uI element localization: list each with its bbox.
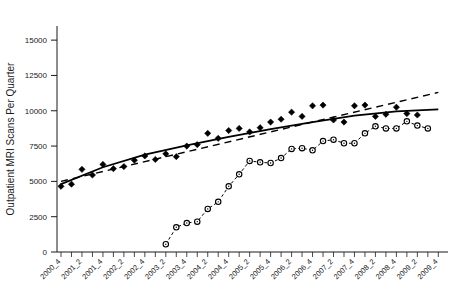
- data-point-diamond: [173, 154, 179, 160]
- y-tick-group: 0250050007500100001250015000: [25, 36, 57, 257]
- data-point-circle-center: [312, 150, 313, 151]
- y-axis-label: Outpatient MRI Scans Per Quarter: [5, 62, 16, 216]
- x-tick-label: 2001_4: [80, 257, 104, 281]
- x-tick-label: 2009_2: [395, 257, 419, 281]
- data-point-diamond: [110, 166, 116, 172]
- data-point-circle-center: [301, 147, 302, 148]
- data-point-diamond: [226, 127, 232, 133]
- data-point-circle-center: [427, 128, 428, 129]
- chart-figure: 0250050007500100001250015000 Outpatient …: [0, 0, 457, 296]
- trendline-dashed: [61, 92, 438, 181]
- data-point-circle-center: [176, 227, 177, 228]
- data-point-circle-center: [228, 186, 229, 187]
- x-tick-label: 2008_2: [353, 257, 377, 281]
- data-point-circle-center: [364, 133, 365, 134]
- x-tick-label: 2000_4: [38, 257, 62, 281]
- data-point-diamond: [393, 104, 399, 110]
- y-tick-label: 15000: [25, 36, 48, 45]
- x-tick-label: 2003_2: [143, 257, 167, 281]
- data-point-diamond: [68, 181, 74, 187]
- data-point-diamond: [414, 112, 420, 118]
- x-tick-label: 2004_4: [206, 257, 230, 281]
- data-point-diamond: [299, 113, 305, 119]
- y-axis-group: 0250050007500100001250015000 Outpatient …: [5, 26, 57, 257]
- trendline-solid: [61, 109, 438, 184]
- data-point-diamond: [341, 119, 347, 125]
- data-point-circle-center: [322, 140, 323, 141]
- trendline-group: [61, 92, 438, 184]
- data-point-diamond: [236, 125, 242, 131]
- x-tick-label: 2008_4: [374, 257, 398, 281]
- data-point-circle-center: [406, 121, 407, 122]
- data-point-circle-center: [238, 174, 239, 175]
- data-point-diamond: [79, 166, 85, 172]
- data-point-diamond: [288, 109, 294, 115]
- data-point-diamond: [351, 103, 357, 109]
- chart-canvas: 0250050007500100001250015000 Outpatient …: [0, 0, 457, 296]
- x-tick-label: 2004_2: [185, 257, 209, 281]
- x-tick-group: [61, 252, 438, 257]
- x-tick-label: 2005_4: [248, 257, 272, 281]
- x-tick-label-group: 2000_42001_22001_42002_22002_42003_22003…: [38, 257, 439, 281]
- x-tick-label: 2007_4: [332, 257, 356, 281]
- data-point-diamond: [320, 102, 326, 108]
- data-point-diamond: [184, 143, 190, 149]
- data-point-circle-center: [197, 221, 198, 222]
- x-axis-group: 2000_42001_22001_42002_22002_42003_22003…: [38, 252, 448, 281]
- data-point-circle-center: [385, 128, 386, 129]
- data-point-circle-center: [375, 126, 376, 127]
- series-line: [166, 121, 428, 244]
- data-point-diamond: [278, 116, 284, 122]
- y-tick-label: 0: [43, 248, 48, 257]
- data-point-circle-center: [259, 162, 260, 163]
- x-tick-label: 2006_4: [290, 257, 314, 281]
- data-point-diamond: [152, 156, 158, 162]
- x-tick-label: 2006_2: [269, 257, 293, 281]
- data-point-circle-center: [165, 244, 166, 245]
- data-point-circle-center: [249, 160, 250, 161]
- x-tick-label: 2007_2: [311, 257, 335, 281]
- data-point-circle-center: [270, 162, 271, 163]
- x-tick-label: 2003_4: [164, 257, 188, 281]
- data-point-circle-center: [207, 208, 208, 209]
- data-series-group: [58, 102, 431, 247]
- y-tick-label: 2500: [29, 213, 47, 222]
- data-point-circle-center: [186, 222, 187, 223]
- data-point-circle-center: [343, 143, 344, 144]
- y-tick-label: 5000: [29, 177, 47, 186]
- x-tick-label: 2002_4: [122, 257, 146, 281]
- data-point-diamond: [268, 119, 274, 125]
- y-tick-label: 7500: [29, 142, 47, 151]
- x-tick-label: 2001_2: [59, 257, 83, 281]
- y-tick-label: 10000: [25, 107, 48, 116]
- data-point-diamond: [205, 130, 211, 136]
- data-point-circle-center: [333, 139, 334, 140]
- data-point-circle-center: [396, 128, 397, 129]
- series-1: [163, 119, 430, 247]
- data-point-circle-center: [280, 157, 281, 158]
- data-point-diamond: [362, 102, 368, 108]
- data-point-diamond: [121, 163, 127, 169]
- y-tick-label: 12500: [25, 71, 48, 80]
- x-tick-label: 2005_2: [227, 257, 251, 281]
- data-point-circle-center: [354, 143, 355, 144]
- data-point-circle-center: [218, 201, 219, 202]
- data-point-diamond: [309, 103, 315, 109]
- data-point-diamond: [215, 135, 221, 141]
- x-tick-label: 2002_2: [101, 257, 125, 281]
- data-point-circle-center: [291, 148, 292, 149]
- data-point-circle-center: [417, 125, 418, 126]
- x-tick-label: 2009_4: [416, 257, 440, 281]
